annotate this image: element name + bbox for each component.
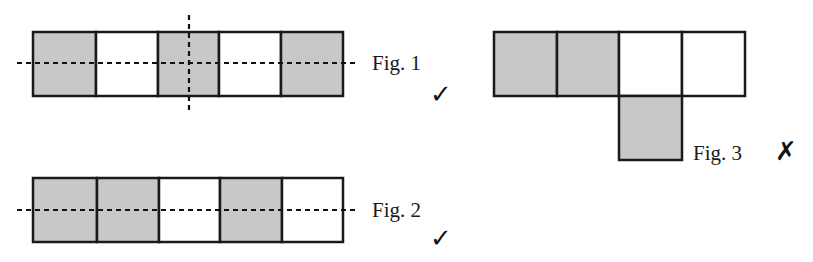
fig3-cell-5 (619, 96, 682, 160)
cross-icon: ✗ (775, 136, 797, 166)
fig3-cell-3 (619, 32, 682, 96)
fig3-cell-2 (557, 32, 619, 96)
figure-2: Fig. 2 ✓ (17, 178, 452, 253)
fig2-label: Fig. 2 (372, 198, 421, 222)
check-icon: ✓ (430, 79, 452, 109)
figure-1: Fig. 1 ✓ (17, 15, 452, 114)
symmetry-diagram: Fig. 1 ✓ Fig. 2 ✓ Fig. 3 ✗ (0, 0, 813, 262)
fig3-label: Fig. 3 (693, 141, 742, 165)
fig3-cell-1 (494, 32, 557, 96)
check-icon: ✓ (430, 223, 452, 253)
fig1-label: Fig. 1 (372, 51, 421, 75)
fig3-cell-4 (682, 32, 745, 96)
figure-3: Fig. 3 ✗ (494, 32, 797, 166)
